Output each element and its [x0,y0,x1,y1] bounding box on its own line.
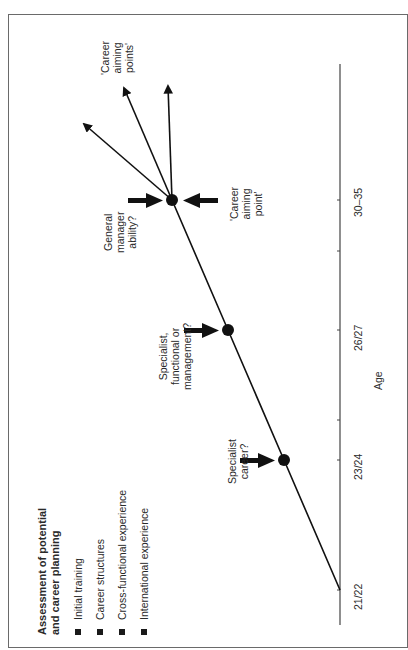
square-bullet-icon [97,629,103,635]
tick-label-30-35: 30–35 [352,188,364,217]
milestone-label-specialist-functional: Specialist, functional or management? [157,323,193,390]
aiming-arrows [84,86,172,200]
career-aiming-point-label: 'Career aiming point' [228,187,264,221]
legend: Assessment of potential and career plann… [36,490,150,635]
legend-item: Career structures [94,490,106,635]
legend-title-line2: and career planning [49,490,62,635]
legend-item: International experience [138,490,150,635]
axis-label-age: Age [372,371,384,390]
tick-label-23-24: 23/24 [352,454,364,480]
career-trajectory-line [172,200,340,590]
milestone-dot-23-24 [278,454,290,466]
milestone-label-general-manager: General manager ability? [102,212,138,253]
milestone-dot-26-27 [222,324,234,336]
tick-label-21-22: 21/22 [352,584,364,610]
career-aiming-points-label: 'Career aiming points' [99,41,135,75]
tick-label-26-27: 26/27 [352,325,364,351]
pointer-arrow-icon [128,193,163,208]
square-bullet-icon [75,629,81,635]
legend-item: Initial training [72,490,84,635]
legend-title-line1: Assessment of potential [36,490,49,635]
square-bullet-icon [141,629,147,635]
square-bullet-icon [119,629,125,635]
legend-item: Cross-functional experience [116,490,128,635]
milestone-label-specialist-career: Specialist career? [226,439,250,484]
age-axis [337,64,340,625]
pointer-arrow-icon [183,193,218,208]
